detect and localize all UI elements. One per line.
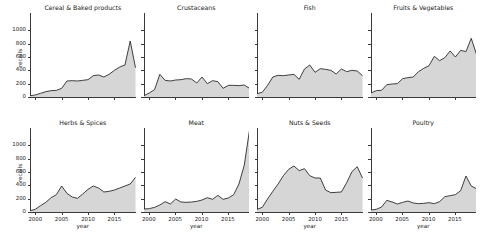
y-tick-mark <box>28 199 31 200</box>
x-axis-label: year <box>257 223 363 229</box>
x-tick-mark <box>62 97 63 100</box>
x-tick-label: 2005 <box>282 216 296 222</box>
y-tick-mark <box>28 30 31 31</box>
area-fill <box>257 65 363 97</box>
x-tick-mark <box>228 212 229 215</box>
x-axis <box>257 97 363 115</box>
y-tick-mark <box>255 172 258 173</box>
x-tick-label: 2000 <box>28 216 42 222</box>
x-tick-mark <box>228 97 229 100</box>
plot-area <box>30 128 136 212</box>
y-tick-mark <box>255 159 258 160</box>
x-tick-mark <box>429 97 430 100</box>
y-tick-mark <box>141 185 144 186</box>
x-axis-label: year <box>144 223 250 229</box>
y-axis-ticks-shared <box>255 13 258 97</box>
chart-panel-cereal-baked-products: Cereal & Baked products02004006008001000… <box>30 4 136 115</box>
y-axis-ticks-shared <box>255 128 258 212</box>
area-fill <box>371 176 477 212</box>
x-tick-mark <box>175 97 176 100</box>
x-tick-mark <box>289 212 290 215</box>
x-tick-mark <box>455 97 456 100</box>
x-tick-mark <box>88 212 89 215</box>
x-tick-mark <box>315 97 316 100</box>
x-tick-mark <box>402 212 403 215</box>
small-multiples-figure: Cereal & Baked products02004006008001000… <box>0 0 482 242</box>
x-tick-mark <box>402 97 403 100</box>
y-tick-mark <box>368 185 371 186</box>
y-tick-mark <box>141 30 144 31</box>
y-tick-mark <box>255 44 258 45</box>
x-tick-label: 2015 <box>335 216 349 222</box>
y-tick-mark <box>368 172 371 173</box>
chart-panel-meat: Meat2000200520102015year <box>144 119 250 230</box>
x-tick-label: 2015 <box>221 216 235 222</box>
plot-area <box>30 13 136 97</box>
x-tick-label: 2010 <box>308 216 322 222</box>
panel-title: Nuts & Seeds <box>257 119 363 127</box>
y-tick-mark <box>28 185 31 186</box>
y-tick-mark <box>368 199 371 200</box>
x-axis-label: year <box>30 223 136 229</box>
x-tick-mark <box>455 212 456 215</box>
y-tick-mark <box>28 159 31 160</box>
x-tick-mark <box>341 212 342 215</box>
chart-row-top: Cereal & Baked products02004006008001000… <box>0 4 482 115</box>
x-tick-mark <box>289 97 290 100</box>
y-tick-mark <box>368 70 371 71</box>
area-fill <box>30 177 136 212</box>
x-tick-mark <box>341 97 342 100</box>
y-axis-ticks-shared <box>141 13 144 97</box>
panel-title: Cereal & Baked products <box>30 4 136 12</box>
chart-row-bottom: Herbs & Spices02004006008001000recalls20… <box>0 119 482 230</box>
y-axis-label: recalls <box>17 143 23 203</box>
y-tick-label: 0 <box>23 209 26 214</box>
y-tick-mark <box>141 145 144 146</box>
x-tick-mark <box>429 212 430 215</box>
x-tick-mark <box>35 212 36 215</box>
y-tick-mark <box>141 159 144 160</box>
y-tick-label: 0 <box>23 94 26 99</box>
x-tick-label: 2010 <box>195 216 209 222</box>
x-tick-mark <box>114 97 115 100</box>
panel-title: Crustaceans <box>144 4 250 12</box>
y-tick-mark <box>141 84 144 85</box>
x-tick-label: 2005 <box>55 216 69 222</box>
y-axis: 02004006008001000recalls <box>0 13 30 97</box>
y-tick-mark <box>368 84 371 85</box>
y-tick-mark <box>255 84 258 85</box>
x-tick-mark <box>149 212 150 215</box>
plot-area <box>144 13 250 97</box>
x-tick-mark <box>376 97 377 100</box>
x-tick-mark <box>88 97 89 100</box>
plot-area <box>371 13 477 97</box>
y-tick-mark <box>368 30 371 31</box>
plot-area <box>371 128 477 212</box>
x-tick-mark <box>262 97 263 100</box>
x-axis: 2000200520102015year <box>371 212 477 230</box>
plot-area <box>144 128 250 212</box>
chart-panel-fruits-vegetables: Fruits & Vegetables <box>371 4 477 115</box>
area-fill <box>30 41 136 97</box>
x-axis-label: year <box>371 223 477 229</box>
y-tick-mark <box>368 159 371 160</box>
panel-title: Herbs & Spices <box>30 119 136 127</box>
plot-area <box>257 128 363 212</box>
x-tick-mark <box>262 212 263 215</box>
y-tick-mark <box>28 57 31 58</box>
y-tick-mark <box>255 30 258 31</box>
x-tick-label: 2010 <box>81 216 95 222</box>
panel-title: Meat <box>144 119 250 127</box>
y-tick-mark <box>28 172 31 173</box>
x-tick-mark <box>376 212 377 215</box>
x-tick-label: 2000 <box>142 216 156 222</box>
x-axis: 2000200520102015year <box>30 212 136 230</box>
y-axis-ticks-shared <box>141 128 144 212</box>
y-tick-mark <box>141 57 144 58</box>
x-tick-label: 2005 <box>168 216 182 222</box>
y-tick-mark <box>255 199 258 200</box>
y-tick-mark <box>141 199 144 200</box>
x-axis <box>144 97 250 115</box>
y-tick-mark <box>141 44 144 45</box>
y-tick-mark <box>28 44 31 45</box>
